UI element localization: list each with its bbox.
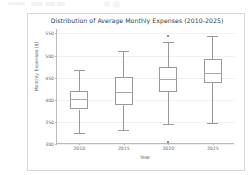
- x-tick-label-2010: 2010: [73, 146, 85, 151]
- y-tick-label: 500: [45, 53, 54, 58]
- whisker-cap-lower: [118, 130, 129, 131]
- whisker-lower: [212, 83, 213, 122]
- median-line: [70, 99, 88, 100]
- whisker-cap-lower: [207, 123, 218, 124]
- y-tick-label: 300: [45, 142, 54, 147]
- y-tick-label: 450: [45, 75, 54, 80]
- whisker-upper: [123, 51, 124, 77]
- whisker-lower: [79, 110, 80, 133]
- toolbar-ghost-item-4: [57, 2, 65, 6]
- whisker-upper: [168, 42, 169, 67]
- plot-area: 3003504004505005502010201520202025: [56, 29, 234, 144]
- boxplot-2020[interactable]: [159, 29, 177, 144]
- median-line: [115, 92, 133, 93]
- median-line: [159, 79, 177, 80]
- whisker-cap-lower: [74, 133, 85, 134]
- box-iqr: [70, 91, 88, 110]
- outlier-point: [167, 35, 169, 37]
- toolbar-ghost-button-1: [104, 1, 110, 7]
- box-iqr: [204, 59, 222, 83]
- y-tick-mark: [55, 144, 57, 145]
- y-tick-mark: [55, 122, 57, 123]
- y-axis-label: Monthly Expenses ($): [34, 37, 39, 97]
- x-tick-label-2025: 2025: [207, 146, 219, 151]
- y-tick-mark: [55, 33, 57, 34]
- whisker-upper: [212, 36, 213, 59]
- whisker-lower: [123, 105, 124, 130]
- whisker-cap-upper: [163, 42, 174, 43]
- whisker-lower: [168, 92, 169, 124]
- y-tick-label: 550: [45, 31, 54, 36]
- whisker-cap-upper: [207, 36, 218, 37]
- chart-figure: Distribution of Average Monthly Expenses…: [27, 13, 245, 171]
- y-tick-mark: [55, 56, 57, 57]
- y-tick-label: 350: [45, 119, 54, 124]
- boxplot-2015[interactable]: [115, 29, 133, 144]
- whisker-cap-lower: [163, 124, 174, 125]
- x-tick-label-2015: 2015: [118, 146, 130, 151]
- median-line: [204, 73, 222, 74]
- toolbar-ghost-button-2: [113, 1, 120, 8]
- plot-wrapper: 3003504004505005502010201520202025 Year …: [28, 14, 246, 172]
- y-tick-mark: [55, 78, 57, 79]
- y-tick-mark: [55, 100, 57, 101]
- boxplot-2025[interactable]: [204, 29, 222, 144]
- y-tick-label: 400: [45, 97, 54, 102]
- x-tick-label-2020: 2020: [162, 146, 174, 151]
- whisker-cap-upper: [74, 70, 85, 71]
- outlier-point: [167, 141, 169, 143]
- toolbar-ghost-item-1: [8, 2, 25, 5]
- top-toolbar-remnant: [0, 0, 249, 11]
- boxplot-2010[interactable]: [70, 29, 88, 144]
- x-axis-label: Year: [56, 155, 234, 160]
- whisker-cap-upper: [118, 51, 129, 52]
- toolbar-ghost-item-2: [31, 2, 43, 6]
- toolbar-ghost-item-3: [45, 2, 55, 6]
- whisker-upper: [79, 70, 80, 91]
